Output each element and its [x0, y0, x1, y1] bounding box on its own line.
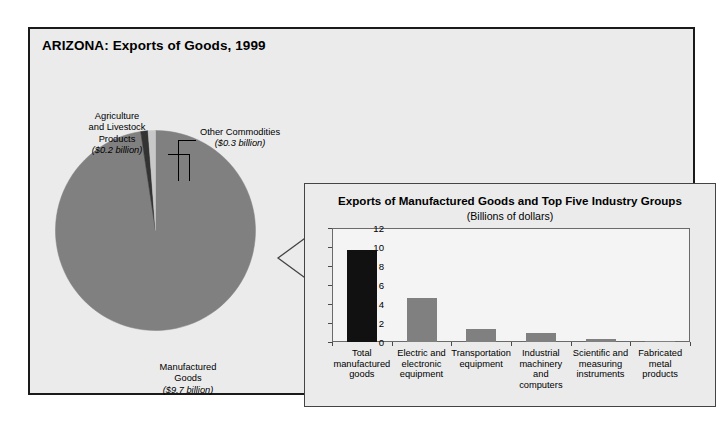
x-axis-tick-mark	[630, 342, 631, 346]
y-axis-tick-mark	[328, 285, 332, 286]
pie-label-agriculture: Agriculture and Livestock Products ($0.2…	[65, 111, 169, 157]
bar-4	[586, 339, 616, 342]
y-axis-tick-label: 12	[358, 223, 384, 234]
y-axis-tick-mark	[328, 228, 332, 229]
x-axis-category-line: Fabricated	[622, 348, 698, 359]
x-axis-tick-mark	[392, 342, 393, 346]
leader-line-other-vertical	[178, 140, 179, 181]
pie-label-manufactured-line1: Manufactured	[125, 362, 251, 373]
x-axis-category-label: Fabricatedmetalproducts	[622, 348, 698, 380]
bar-1	[407, 298, 437, 342]
figure-frame: ARIZONA: Exports of Goods, 1999 Agricult…	[28, 27, 695, 395]
bar-3	[526, 333, 556, 342]
leader-line-agriculture-horizontal	[168, 154, 190, 155]
x-axis-tick-mark	[332, 342, 333, 346]
plot-area-box	[332, 228, 690, 342]
x-axis-category-line: equipment	[384, 369, 460, 380]
pie-label-agriculture-line1: Agriculture	[65, 111, 169, 122]
pie-label-manufactured-value: ($9.7 billion)	[125, 385, 251, 396]
x-axis-category-line: products	[622, 369, 698, 380]
chart-title: Exports of Manufactured Goods and Top Fi…	[305, 194, 715, 207]
pie-label-agriculture-line2: and Livestock	[65, 122, 169, 133]
chart-subtitle: (Billions of dollars)	[305, 210, 715, 222]
figure-page: ARIZONA: Exports of Goods, 1999 Agricult…	[0, 0, 720, 422]
y-axis-tick-mark	[328, 304, 332, 305]
bar-2	[466, 329, 496, 342]
pie-label-manufactured-goods: Manufactured Goods ($9.7 billion)	[125, 362, 251, 396]
bar-5	[645, 341, 675, 343]
x-axis-tick-mark	[690, 342, 691, 346]
pie-label-other-commodities: Other Commodities ($0.3 billion)	[182, 127, 298, 150]
pie-label-agriculture-line3: Products	[65, 134, 169, 145]
pie-label-agriculture-value: ($0.2 billion)	[65, 145, 169, 156]
pie-label-other-value: ($0.3 billion)	[182, 138, 298, 149]
x-axis-tick-mark	[451, 342, 452, 346]
x-axis-tick-mark	[571, 342, 572, 346]
x-axis-category-line: computers	[503, 380, 579, 391]
x-axis-category-line: metal	[622, 359, 698, 370]
y-axis-tick-mark	[328, 247, 332, 248]
x-axis-tick-mark	[511, 342, 512, 346]
y-axis-tick-mark	[328, 266, 332, 267]
leader-line-agriculture-vertical	[189, 154, 190, 181]
bar-chart-plot: 024681012 TotalmanufacturedgoodsElectric…	[332, 228, 690, 342]
pie-label-manufactured-line2: Goods	[125, 373, 251, 384]
y-axis-tick-mark	[328, 323, 332, 324]
page-title: ARIZONA: Exports of Goods, 1999	[42, 38, 266, 53]
bar-0	[347, 250, 377, 342]
pie-label-other-line1: Other Commodities	[182, 127, 298, 138]
